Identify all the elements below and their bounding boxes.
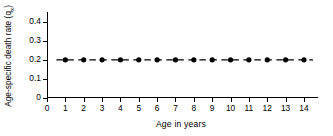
data-point — [118, 57, 123, 62]
data-point — [210, 57, 215, 62]
x-tick-label-14: 14 — [299, 104, 308, 112]
x-tick-mark-3 — [102, 98, 103, 102]
data-point — [283, 57, 288, 62]
x-tick-mark-9 — [212, 98, 213, 102]
x-tick-label-5: 5 — [136, 104, 141, 112]
x-tick-mark-7 — [175, 98, 176, 102]
y-axis-title-text: Age-specific death rate (qx) — [5, 5, 15, 107]
data-point — [265, 57, 270, 62]
y-tick-label: 0.4 — [29, 17, 41, 25]
x-tick-label-13: 13 — [281, 104, 290, 112]
data-series-layer — [47, 12, 315, 98]
x-tick-mark-1 — [65, 98, 66, 102]
y-tick-label: 0.3 — [29, 36, 41, 44]
y-tick-label: 0.1 — [29, 74, 41, 82]
x-tick-label-2: 2 — [81, 104, 86, 112]
data-point — [81, 57, 86, 62]
y-axis-title-close-paren: ) — [4, 5, 13, 8]
x-tick-mark-5 — [139, 98, 140, 102]
y-axis-title: Age-specific death rate (qx) — [0, 0, 20, 112]
x-tick-label-11: 11 — [245, 104, 254, 112]
data-point — [228, 57, 233, 62]
data-point — [173, 57, 178, 62]
x-tick-mark-2 — [84, 98, 85, 102]
x-tick-mark-12 — [267, 98, 268, 102]
x-tick-mark-14 — [304, 98, 305, 102]
x-tick-mark-13 — [286, 98, 287, 102]
data-point — [155, 57, 160, 62]
x-tick-label-3: 3 — [100, 104, 105, 112]
x-tick-label-6: 6 — [155, 104, 160, 112]
y-tick-label: 0.2 — [29, 55, 41, 63]
plot-area: 00.10.20.30.4 01234567891011121314 — [47, 12, 315, 98]
x-tick-mark-0 — [47, 98, 48, 102]
x-tick-mark-8 — [194, 98, 195, 102]
x-tick-label-0: 0 — [45, 104, 50, 112]
x-tick-mark-10 — [231, 98, 232, 102]
data-point — [301, 57, 306, 62]
data-point — [99, 57, 104, 62]
x-tick-label-12: 12 — [263, 104, 272, 112]
y-axis-title-main: Age-specific death rate (q — [4, 11, 13, 107]
x-tick-label-9: 9 — [210, 104, 215, 112]
data-point — [246, 57, 251, 62]
x-tick-label-7: 7 — [173, 104, 178, 112]
data-point — [191, 57, 196, 62]
x-tick-mark-4 — [120, 98, 121, 102]
x-tick-label-8: 8 — [192, 104, 197, 112]
data-point — [63, 57, 68, 62]
y-tick-label: 0 — [36, 93, 41, 101]
x-tick-mark-6 — [157, 98, 158, 102]
x-tick-label-1: 1 — [63, 104, 68, 112]
y-axis-title-subscript: x — [8, 8, 15, 11]
x-tick-label-10: 10 — [226, 104, 235, 112]
chart-figure: Age-specific death rate (qx) 00.10.20.30… — [0, 0, 333, 136]
x-tick-label-4: 4 — [118, 104, 123, 112]
x-axis-title: Age in years — [47, 119, 315, 129]
data-point — [136, 57, 141, 62]
x-tick-mark-11 — [249, 98, 250, 102]
